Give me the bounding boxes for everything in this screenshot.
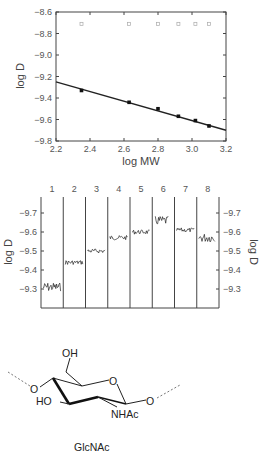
lane-traces <box>43 216 215 291</box>
data-point <box>127 101 131 105</box>
dashed-bond-left <box>8 372 30 386</box>
bond-c3-c2-bold <box>69 397 98 404</box>
bond-c2-c1 <box>98 397 126 404</box>
data-point <box>156 107 160 111</box>
label-o-right: O <box>146 395 154 407</box>
logd-vs-logmw-chart: −8.6−8.8−9.0−9.2−9.4−9.6−9.8 2.22.42.62.… <box>14 7 232 167</box>
bond-c6-oh <box>66 358 70 372</box>
y-tick-label: −9.7 <box>19 208 37 218</box>
open-marker <box>194 22 197 25</box>
y-tick-label: −9.4 <box>19 265 37 275</box>
y-tick-label: −9.0 <box>34 50 52 60</box>
x-tick-label: 2.4 <box>84 144 97 154</box>
y-tick-label-right: −9.4 <box>223 265 241 275</box>
x-tick-label: 3.2 <box>220 144 233 154</box>
bond-c2-n <box>98 397 117 407</box>
bond-o5-c1 <box>117 384 126 404</box>
chart1-y-ticks: −8.6−8.8−9.0−9.2−9.4−9.6−9.8 <box>34 7 226 146</box>
chart2-y-label-left: log D <box>2 239 14 265</box>
y-tick-label: −9.6 <box>34 115 52 125</box>
figure-canvas: −8.6−8.8−9.0−9.2−9.4−9.6−9.8 2.22.42.62.… <box>0 0 263 461</box>
y-tick-label: −8.8 <box>34 29 52 39</box>
open-marker <box>128 22 131 25</box>
y-tick-label: −9.5 <box>19 246 37 256</box>
data-point <box>207 124 211 128</box>
lane-trace <box>132 230 150 234</box>
y-tick-label-right: −9.7 <box>223 208 241 218</box>
y-tick-label-right: −9.6 <box>223 227 241 237</box>
bond-c5-o5 <box>82 380 109 386</box>
data-point <box>80 89 84 93</box>
label-ho: HO <box>36 395 52 407</box>
lane-labels: 12345678 <box>50 184 211 194</box>
bond-o4-c4 <box>40 378 53 387</box>
data-point <box>177 114 181 118</box>
x-tick-label: 3.0 <box>186 144 199 154</box>
lane-label: 6 <box>161 184 166 194</box>
lane-logd-chart: 12345678 −9.7−9.7−9.6−9.6−9.5−9.5−9.4−9.… <box>2 184 260 308</box>
y-tick-label: −8.6 <box>34 7 52 17</box>
structure-caption: GlcNAc <box>74 441 110 453</box>
chart1-x-label: log MW <box>122 155 160 167</box>
x-tick-label: 2.6 <box>118 144 131 154</box>
lane-label: 3 <box>94 184 99 194</box>
lane-label: 5 <box>139 184 144 194</box>
lane-trace <box>177 228 195 232</box>
lane-label: 1 <box>50 184 55 194</box>
lane-dividers <box>63 197 197 308</box>
lane-trace <box>110 236 128 240</box>
chart1-y-label: log D <box>14 63 26 89</box>
open-marker <box>208 22 211 25</box>
y-tick-label-right: −9.5 <box>223 246 241 256</box>
open-markers <box>80 22 211 25</box>
label-ring-o: O <box>109 375 117 387</box>
dashed-bond-right <box>157 385 180 398</box>
open-marker <box>177 22 180 25</box>
y-tick-label: −9.4 <box>34 93 52 103</box>
x-tick-label: 2.8 <box>152 144 165 154</box>
open-marker <box>157 22 160 25</box>
lane-trace <box>199 234 215 242</box>
y-tick-label: −9.6 <box>19 227 37 237</box>
chart1-x-ticks: 2.22.42.62.83.03.2 <box>50 12 233 154</box>
y-tick-label: −9.2 <box>34 72 52 82</box>
data-point <box>194 119 198 123</box>
chart2-y-label-right: log D <box>248 239 260 265</box>
lane-trace <box>43 283 61 291</box>
label-o-left: O <box>30 383 38 395</box>
lane-trace <box>65 261 83 265</box>
y-tick-label: −9.3 <box>19 284 37 294</box>
label-oh: OH <box>62 347 78 359</box>
lane-trace <box>155 216 168 224</box>
chart1-frame <box>56 12 226 141</box>
lane-label: 8 <box>205 184 210 194</box>
lane-label: 7 <box>183 184 188 194</box>
y-tick-label-right: −9.3 <box>223 284 241 294</box>
bond-c1-o1 <box>126 400 146 404</box>
label-nhac: NHAc <box>111 408 138 420</box>
lane-label: 4 <box>116 184 121 194</box>
open-marker <box>80 22 83 25</box>
lane-trace <box>88 249 106 253</box>
x-tick-label: 2.2 <box>50 144 63 154</box>
glcnac-structure: OH O O HO NHAc O GlcNAc <box>8 347 180 453</box>
lane-label: 2 <box>72 184 77 194</box>
